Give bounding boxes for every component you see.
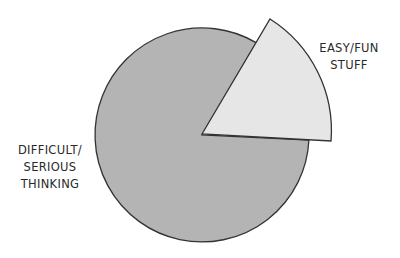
label-line: STUFF: [318, 57, 380, 74]
label-line: THINKING: [14, 176, 86, 193]
label-line: EASY/FUN: [318, 40, 380, 57]
label-easy-fun-stuff: EASY/FUN STUFF: [318, 40, 380, 74]
label-line: DIFFICULT/: [14, 142, 86, 159]
pie-chart-graphic: [0, 0, 400, 258]
label-line: SERIOUS: [14, 159, 86, 176]
label-difficult-serious-thinking: DIFFICULT/ SERIOUS THINKING: [14, 142, 86, 193]
